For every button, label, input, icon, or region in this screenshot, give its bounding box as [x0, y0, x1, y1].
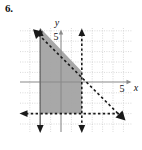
y-axis-label: y: [54, 17, 60, 28]
y-axis-tick-label-5: 5: [54, 31, 59, 42]
exercise-figure: 6.: [0, 0, 142, 150]
graph-canvas: y 5 x 5: [0, 0, 142, 150]
x-axis-label: x: [133, 82, 139, 93]
x-axis-tick-label-5: 5: [120, 83, 125, 94]
coordinate-graph: y 5 x 5: [0, 0, 142, 150]
